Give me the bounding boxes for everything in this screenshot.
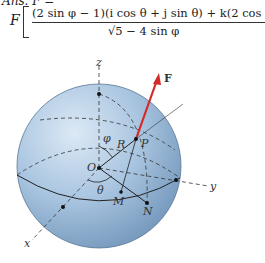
force-arrowhead [153,73,161,85]
point-m-label: M [112,195,125,208]
radius-label: R [116,138,125,151]
sphere-diagram: z y x F O P M N R φ θ [0,0,265,263]
z-label: z [95,56,102,69]
origin-label: O [87,161,96,174]
y-label: y [209,180,217,193]
point-n-label: N [142,205,153,218]
x-label: x [24,237,31,250]
point-p-label: P [140,137,149,150]
theta-label: θ [97,184,104,197]
phi-label: φ [103,132,111,145]
force-label: F [164,72,172,85]
